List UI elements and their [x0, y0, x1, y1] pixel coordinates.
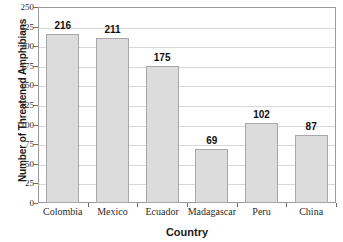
bar-group[interactable]: 102 — [245, 7, 278, 203]
bar-value-label: 211 — [88, 24, 137, 35]
y-tick-label: 50 — [4, 159, 34, 169]
bar-china[interactable] — [295, 135, 328, 203]
y-tick-label: 75 — [4, 139, 34, 149]
y-tick-label: 25 — [4, 178, 34, 188]
bar-peru[interactable] — [245, 123, 278, 203]
y-tick-label: 125 — [4, 100, 34, 110]
bar-value-label: 69 — [187, 135, 236, 146]
x-axis-title: Country — [38, 226, 336, 238]
bar-value-label: 175 — [138, 52, 187, 63]
y-tick-label: 200 — [4, 41, 34, 51]
bar-group[interactable]: 175 — [146, 7, 179, 203]
y-tick-label: 250 — [4, 2, 34, 12]
y-tick-label: 150 — [4, 80, 34, 90]
bar-group[interactable]: 216 — [46, 7, 79, 203]
bar-colombia[interactable] — [46, 34, 79, 203]
bar-group[interactable]: 69 — [195, 7, 228, 203]
y-tick-label: 100 — [4, 120, 34, 130]
x-tick-label-china: China — [278, 206, 343, 217]
y-tick-label: 225 — [4, 22, 34, 32]
bar-mexico[interactable] — [96, 38, 129, 203]
bar-value-label: 216 — [38, 20, 87, 31]
bar-group[interactable]: 87 — [295, 7, 328, 203]
bar-chart-figure: Number of Threatened Amphibians 02550751… — [0, 0, 343, 242]
y-tick-label: 175 — [4, 61, 34, 71]
bar-value-label: 87 — [287, 121, 336, 132]
bar-value-label: 102 — [237, 109, 286, 120]
y-tick-mark — [33, 203, 38, 204]
bar-group[interactable]: 211 — [96, 7, 129, 203]
bar-ecuador[interactable] — [146, 66, 179, 203]
bars-layer: 2162111756910287 — [38, 7, 336, 203]
bar-madagascar[interactable] — [195, 149, 228, 203]
x-tick-mark — [336, 203, 337, 207]
